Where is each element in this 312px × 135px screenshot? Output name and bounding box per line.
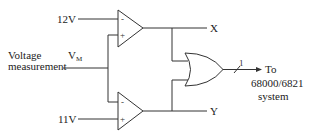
- label-vm-symbol: V: [68, 49, 76, 61]
- comparator-circuit-diagram: 12V 11V Voltage measurement V M - + - + …: [0, 0, 312, 135]
- wire-vm-split: [108, 35, 118, 102]
- dest-to: To: [265, 63, 277, 75]
- dest-system: system: [258, 90, 289, 102]
- label-vm-subscript: M: [76, 55, 83, 63]
- upper-minus-sign: -: [121, 14, 124, 24]
- upper-plus-sign: +: [120, 30, 125, 40]
- label-11v: 11V: [58, 113, 77, 125]
- label-x: X: [210, 22, 218, 34]
- arrow-head-icon: [256, 67, 262, 72]
- or-gate: [185, 53, 223, 86]
- wire-x-to-or: [172, 28, 188, 61]
- label-measurement: measurement: [8, 60, 67, 72]
- dest-system-id: 68000/6821: [251, 77, 304, 89]
- lower-minus-sign: -: [121, 97, 124, 107]
- label-12v: 12V: [57, 13, 76, 25]
- lower-plus-sign: +: [120, 114, 125, 124]
- bus-width-label: 1: [239, 58, 244, 68]
- label-y: Y: [210, 105, 218, 117]
